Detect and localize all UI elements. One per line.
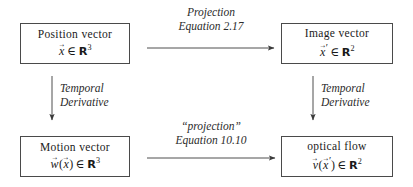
dimension-exponent: 2 [351, 44, 355, 53]
vector-symbol-w: w [50, 158, 59, 171]
edge-label-temporal-derivative-left-line1: Temporal [60, 81, 130, 95]
edge-label-temporal-derivative-left: Temporal Derivative [60, 81, 130, 109]
edge-label-temporal-derivative-right-line1: Temporal [321, 81, 391, 95]
node-position-vector: Position vector x∈R3 [20, 23, 130, 64]
element-of-icon: ∈ [65, 44, 79, 58]
element-of-icon: ∈ [328, 45, 342, 59]
edge-label-temporal-derivative-left-line2: Derivative [60, 95, 130, 109]
real-set-symbol: R [87, 158, 96, 171]
edge-label-projection-top-line2: Equation 2.17 [152, 19, 270, 33]
real-set-symbol: R [349, 159, 358, 172]
node-optical-flow: optical flow v(x′)∈R2 [281, 136, 393, 177]
node-position-vector-title: Position vector [38, 28, 113, 41]
node-motion-vector: Motion vector w(x)∈R3 [20, 136, 130, 177]
vector-symbol-x: x [319, 46, 325, 59]
vector-symbol-x: x [63, 158, 69, 171]
vector-symbol-x: x [59, 45, 65, 58]
element-of-icon: ∈ [73, 157, 87, 171]
element-of-icon: ∈ [335, 158, 349, 172]
edge-label-projection-top-line1: Projection [152, 5, 270, 19]
flow-diagram: Position vector x∈R3 Image vector x′∈R2 … [0, 0, 413, 187]
edge-label-temporal-derivative-right: Temporal Derivative [321, 81, 391, 109]
edge-label-temporal-derivative-right-line2: Derivative [321, 95, 391, 109]
dimension-exponent: 3 [96, 156, 100, 165]
node-position-vector-formula: x∈R3 [59, 43, 92, 59]
dimension-exponent: 2 [358, 157, 362, 166]
edge-label-projection-top: Projection Equation 2.17 [152, 5, 270, 33]
node-optical-flow-formula: v(x′)∈R2 [312, 155, 362, 173]
node-motion-vector-formula: w(x)∈R3 [50, 156, 100, 172]
node-image-vector-title: Image vector [305, 27, 370, 40]
edge-label-projection-bottom-line2: Equation 10.10 [150, 133, 272, 147]
real-set-symbol: R [342, 46, 351, 59]
edge-label-projection-bottom-line1: “projection” [150, 119, 272, 133]
vector-symbol-v: v [312, 159, 318, 172]
node-image-vector-formula: x′∈R2 [319, 42, 354, 60]
edge-label-projection-bottom: “projection” Equation 10.10 [150, 119, 272, 147]
dimension-exponent: 3 [87, 43, 91, 52]
vector-symbol-x: x [323, 159, 329, 172]
node-image-vector: Image vector x′∈R2 [281, 23, 393, 64]
